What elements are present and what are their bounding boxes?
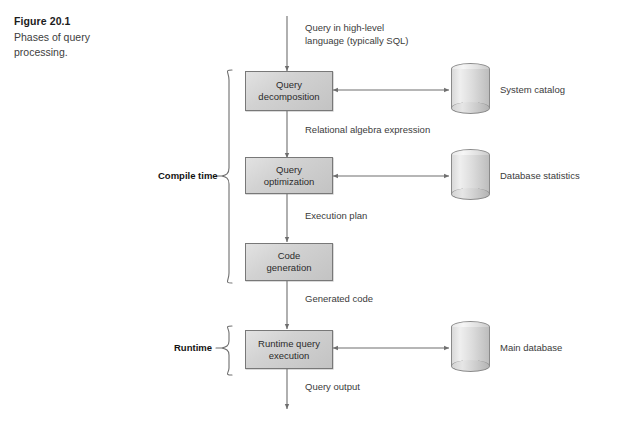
label-system-catalog: System catalog <box>500 84 565 97</box>
box-runtime-query-execution-label: Runtime query execution <box>258 338 320 362</box>
label-database-statistics: Database statistics <box>500 170 580 183</box>
label-query-output: Query output <box>305 381 360 394</box>
box-query-decomposition-label: Query decomposition <box>258 79 319 103</box>
cylinder-bottom-ellipse <box>451 188 490 200</box>
cylinder-bottom-ellipse <box>451 102 490 114</box>
box-query-decomposition[interactable]: Query decomposition <box>245 71 333 111</box>
cylinder-main-database[interactable] <box>451 321 490 372</box>
cylinder-system-catalog[interactable] <box>451 63 490 114</box>
brace-runtime <box>222 326 232 375</box>
cylinder-bottom-ellipse <box>451 360 490 372</box>
box-code-generation-label: Code generation <box>267 250 312 274</box>
label-generated-code: Generated code <box>305 293 373 306</box>
label-execution-plan: Execution plan <box>305 210 367 223</box>
brace-compile-time <box>222 70 232 283</box>
label-relational-algebra-expression: Relational algebra expression <box>305 124 430 137</box>
label-main-database: Main database <box>500 342 562 355</box>
box-query-optimization[interactable]: Query optimization <box>245 157 333 194</box>
label-compile-time: Compile time <box>158 170 218 181</box>
box-query-optimization-label: Query optimization <box>264 164 315 188</box>
box-runtime-query-execution[interactable]: Runtime query execution <box>245 330 333 369</box>
label-query-input: Query in high-level language (typically … <box>305 22 409 47</box>
cylinder-database-statistics[interactable] <box>451 149 490 200</box>
label-runtime: Runtime <box>174 342 212 353</box>
box-code-generation[interactable]: Code generation <box>245 243 333 281</box>
